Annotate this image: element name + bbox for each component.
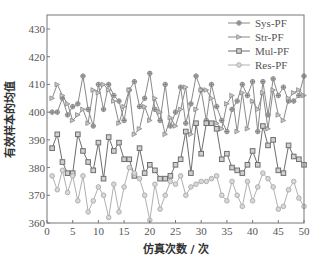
circle-marker-icon [240,204,245,209]
square-marker-icon [55,132,60,137]
circle-marker-icon [261,171,266,176]
square-marker-icon [122,157,127,162]
square-marker-icon [137,146,142,151]
x-axis-title: 仿真次数 / 次 [143,242,210,256]
square-marker-icon [204,121,209,126]
x-tick-label: 25 [170,225,182,237]
square-marker-icon [245,163,250,168]
x-tick-label: 45 [273,225,285,237]
x-tick-label: 30 [196,225,208,237]
square-marker-icon [142,171,147,176]
square-marker-icon [225,151,230,156]
x-tick-label: 15 [119,225,131,237]
square-marker-icon [112,149,117,154]
circle-marker-icon [153,182,158,187]
x-tick-label: 35 [221,225,233,237]
circle-marker-icon [183,193,188,198]
circle-marker-icon [209,176,214,181]
square-marker-icon [297,157,302,162]
legend-item: Mul-PF [228,45,289,57]
circle-marker-icon [173,182,178,187]
triangle-marker-icon [81,107,86,112]
line-chart: 360370380390400410420430 051015202530354… [0,0,321,261]
circle-marker-icon [86,210,91,215]
circle-marker-icon [158,207,163,212]
y-tick-label: 390 [29,134,46,146]
triangle-marker-icon [50,96,55,101]
circle-marker-icon [219,193,224,198]
square-marker-icon [261,124,266,129]
square-marker-icon [101,176,106,181]
square-marker-icon [153,168,158,173]
circle-marker-icon [189,185,194,190]
circle-marker-icon [235,193,240,198]
circle-marker-icon [81,174,86,179]
x-tick-label: 0 [44,225,50,237]
triangle-marker-icon [55,82,60,87]
series-line [52,123,304,178]
circle-marker-icon [225,199,230,204]
circle-marker-icon [291,179,296,184]
circle-marker-icon [214,174,219,179]
square-marker-icon [214,126,219,131]
square-marker-icon [127,157,132,162]
circle-marker-icon [101,193,106,198]
circle-marker-icon [117,210,122,215]
circle-marker-icon [178,174,183,179]
square-marker-icon [163,176,168,181]
plot-series [50,71,306,222]
square-marker-icon [178,157,183,162]
circle-marker-icon [96,185,101,190]
square-marker-icon [158,176,163,181]
square-marker-icon [65,171,70,176]
square-marker-icon [189,171,194,176]
circle-marker-icon [255,185,260,190]
legend-item: Str-PF [228,31,284,43]
legend-label: Sys-PF [255,17,287,29]
circle-marker-icon [286,187,291,192]
square-marker-icon [199,151,204,156]
square-marker-icon [96,140,101,145]
legend-label: Res-PF [255,59,287,71]
square-marker-icon [271,138,276,143]
legend-item: Res-PF [228,59,287,71]
legend-label: Mul-PF [255,45,289,57]
square-marker-icon [209,121,214,126]
x-tick-label: 20 [144,225,156,237]
triangle-marker-icon [204,88,209,93]
circle-marker-icon [266,176,271,181]
y-tick-label: 410 [29,78,46,90]
square-marker-icon [230,165,235,170]
legend-item: Sys-PF [228,17,287,29]
square-marker-icon [235,168,240,173]
square-marker-icon [240,171,245,176]
circle-marker-icon [250,199,255,204]
x-tick-label: 40 [247,225,259,237]
y-tick-label: 370 [29,189,46,201]
circle-marker-icon [65,190,70,195]
square-marker-icon [276,168,281,173]
circle-marker-icon [76,199,81,204]
square-marker-icon [281,171,286,176]
square-marker-icon [50,146,55,151]
circle-marker-icon [163,193,168,198]
circle-marker-icon [70,174,75,179]
square-marker-icon [237,49,242,54]
circle-marker-icon [271,185,276,190]
square-marker-icon [266,143,271,148]
circle-marker-icon [132,171,137,176]
square-marker-icon [183,129,188,134]
circle-marker-icon [281,204,286,209]
square-marker-icon [148,163,153,168]
square-marker-icon [60,160,65,165]
circle-marker-icon [122,185,127,190]
square-marker-icon [117,140,122,145]
circle-marker-icon [142,193,147,198]
circle-marker-icon [60,168,65,173]
circle-marker-icon [230,179,235,184]
series-res-pf [50,165,306,222]
circle-marker-icon [199,179,204,184]
y-tick-label: 360 [29,217,46,229]
square-marker-icon [286,143,291,148]
y-tick-label: 430 [29,23,46,35]
